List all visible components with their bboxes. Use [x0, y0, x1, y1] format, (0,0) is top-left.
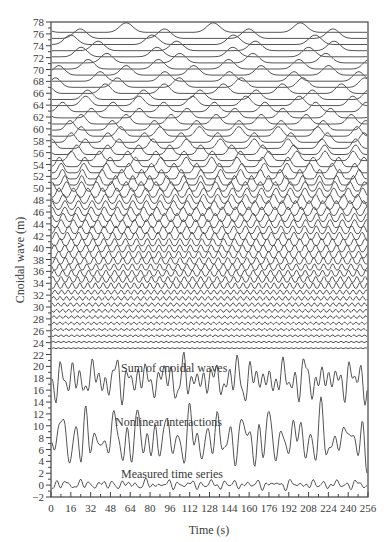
- annotation-sum-of-cnoidal-waves: Sum of cnoidal waves: [121, 361, 228, 375]
- y-tick-label: 58: [33, 135, 45, 147]
- cnoidal-component-trace: [52, 47, 367, 57]
- x-axis-title: Time (s): [189, 523, 230, 537]
- y-axis-title: Cnoidal wave (m): [13, 217, 27, 304]
- x-tick-label: 192: [281, 502, 298, 514]
- cnoidal-component-trace: [52, 133, 367, 143]
- y-tick-label: 72: [33, 52, 44, 64]
- cnoidal-component-trace: [52, 182, 367, 192]
- y-tick-label: 22: [33, 349, 44, 361]
- cnoidal-component-trace: [52, 290, 367, 294]
- cnoidal-component-trace: [52, 348, 367, 349]
- y-tick-label: 42: [33, 230, 44, 242]
- x-tick-label: 80: [145, 502, 157, 514]
- y-tick-label: 26: [33, 325, 45, 337]
- cnoidal-component-trace: [52, 35, 367, 45]
- y-tick-label: 14: [33, 396, 45, 408]
- x-tick-label: 160: [241, 502, 258, 514]
- y-tick-label: 54: [33, 159, 45, 171]
- cnoidal-component-trace: [52, 303, 367, 306]
- cnoidal-component-trace: [52, 139, 367, 149]
- x-tick-label: 224: [320, 502, 337, 514]
- y-tick-label: 6: [39, 444, 45, 456]
- cnoidal-component-trace: [52, 316, 367, 319]
- y-tick-label: 44: [33, 218, 45, 230]
- cnoidal-component-trace: [52, 23, 367, 33]
- cnoidal-component-trace: [52, 163, 367, 173]
- cnoidal-component-trace: [52, 322, 367, 324]
- x-tick-label: 112: [182, 502, 198, 514]
- y-tick-label: 32: [33, 289, 44, 301]
- y-tick-label: 52: [33, 170, 44, 182]
- y-tick-label: 18: [33, 372, 45, 384]
- cnoidal-component-trace: [52, 29, 367, 39]
- x-tick-label: 144: [221, 502, 238, 514]
- cnoidal-component-trace: [52, 283, 367, 289]
- cnoidal-component-trace: [52, 341, 367, 342]
- y-tick-label: 36: [33, 265, 45, 277]
- annotation-nonlinear-interactions: Nonlinear interactions: [115, 415, 222, 429]
- y-tick-label: 68: [33, 75, 45, 87]
- y-tick-label: 30: [33, 301, 45, 313]
- x-tick-label: 16: [65, 502, 77, 514]
- x-tick-label: 128: [201, 502, 218, 514]
- y-tick-label: 24: [33, 337, 45, 349]
- y-tick-label: 40: [33, 242, 45, 254]
- y-tick-label: 2: [39, 467, 45, 479]
- cnoidal-component-trace: [52, 335, 367, 337]
- cnoidal-component-trace: [52, 66, 367, 76]
- y-tick-label: 12: [33, 408, 44, 420]
- cnoidal-component-trace: [52, 90, 367, 100]
- y-tick-label: 34: [33, 277, 45, 289]
- cnoidal-component-trace: [52, 188, 367, 197]
- cnoidal-component-trace: [52, 41, 367, 51]
- y-tick-label: 78: [33, 16, 45, 28]
- y-axis-ticks: −202468101214161820222426283032343638404…: [32, 16, 51, 503]
- y-tick-label: 60: [33, 123, 45, 135]
- x-tick-label: 64: [125, 502, 137, 514]
- x-tick-label: 48: [105, 502, 117, 514]
- cnoidal-component-trace: [52, 194, 367, 203]
- cnoidal-component-trace: [52, 264, 367, 270]
- cnoidal-component-trace: [52, 84, 367, 94]
- x-tick-label: 176: [261, 502, 278, 514]
- cnoidal-component-trace: [52, 127, 367, 137]
- cnoidal-component-trace: [52, 226, 367, 234]
- cnoidal-component-trace: [52, 102, 367, 112]
- cnoidal-component-trace: [52, 176, 367, 186]
- y-tick-label: 66: [33, 87, 45, 99]
- y-tick-label: 50: [33, 182, 45, 194]
- cnoidal-component-trace: [52, 309, 367, 312]
- x-tick-label: 96: [164, 502, 176, 514]
- x-tick-label: 256: [360, 502, 377, 514]
- x-axis-ticks: 0163248648096112128144160176192208224240…: [48, 492, 377, 514]
- cnoidal-component-trace: [52, 108, 367, 118]
- y-tick-label: −2: [32, 491, 44, 503]
- annotation-measured-time-series: Measured time series: [121, 467, 223, 481]
- y-tick-label: 8: [39, 432, 45, 444]
- y-tick-label: 74: [33, 40, 45, 52]
- y-tick-label: 56: [33, 147, 45, 159]
- cnoidal-component-trace: [52, 277, 367, 283]
- cnoidal-wave-chart: −202468101214161820222426283032343638404…: [0, 0, 390, 542]
- y-tick-label: 38: [33, 254, 45, 266]
- y-tick-label: 76: [33, 28, 45, 40]
- y-tick-label: 70: [33, 64, 45, 76]
- y-tick-label: 0: [39, 479, 45, 491]
- x-tick-label: 240: [340, 502, 357, 514]
- y-tick-label: 10: [33, 420, 45, 432]
- cnoidal-component-trace: [52, 270, 367, 276]
- cnoidal-component-trace: [52, 60, 367, 70]
- cnoidal-component-trace: [52, 329, 367, 331]
- x-tick-label: 0: [48, 502, 54, 514]
- y-tick-label: 16: [33, 384, 45, 396]
- cnoidal-component-trace: [52, 72, 367, 82]
- x-tick-label: 208: [300, 502, 317, 514]
- cnoidal-component-trace: [52, 258, 367, 265]
- y-tick-label: 64: [33, 99, 45, 111]
- y-tick-label: 28: [33, 313, 45, 325]
- y-tick-label: 48: [33, 194, 45, 206]
- cnoidal-component-trace: [52, 251, 367, 258]
- x-tick-label: 32: [85, 502, 96, 514]
- y-tick-label: 46: [33, 206, 45, 218]
- y-tick-label: 62: [33, 111, 44, 123]
